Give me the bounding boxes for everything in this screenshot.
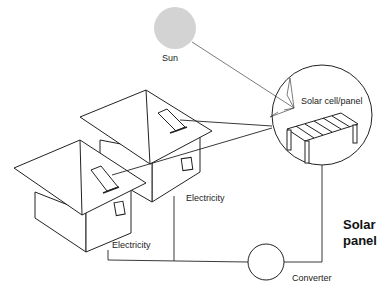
title-line-2: panel: [343, 233, 377, 248]
solar-panel-icon: [287, 113, 358, 163]
converter-label: Converter: [292, 273, 332, 283]
sun: [154, 7, 196, 49]
converter: [248, 244, 284, 280]
sun-label: Sun: [162, 53, 178, 63]
title-line-1: Solar: [343, 217, 376, 232]
solar-cell-label: Solar cell/panel: [301, 96, 363, 106]
electricity-label-2: Electricity: [112, 240, 151, 250]
electricity-label-1: Electricity: [186, 193, 225, 203]
solar-diagram: [0, 0, 386, 294]
